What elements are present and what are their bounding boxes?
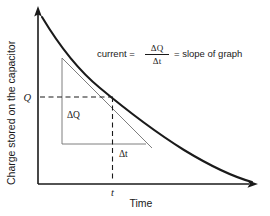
equation-denominator-text: Δt xyxy=(153,56,162,66)
y-tick-label-q: Q xyxy=(23,92,31,103)
capacitor-discharge-figure: Charge stored on the capacitor Time Q t … xyxy=(0,0,270,216)
x-axis-title: Time xyxy=(130,197,153,209)
equation-numerator-text: ΔQ xyxy=(151,43,164,53)
equation-lead-text: current = xyxy=(97,48,135,59)
delta-q-label: ΔQ xyxy=(67,110,80,120)
discharge-curve xyxy=(42,17,252,182)
delta-t-label: Δt xyxy=(119,149,128,159)
y-axis-title: Charge stored on the capacitor xyxy=(5,40,17,185)
construction-triangle-group xyxy=(62,58,152,148)
tangent-line xyxy=(62,58,152,148)
x-tick-label-t: t xyxy=(111,187,115,198)
graph-canvas: Charge stored on the capacitor Time Q t … xyxy=(0,0,270,216)
equation-tail-text: = slope of graph xyxy=(174,48,242,59)
current-equation-annotation: current = ΔQ Δt = slope of graph xyxy=(97,43,242,66)
